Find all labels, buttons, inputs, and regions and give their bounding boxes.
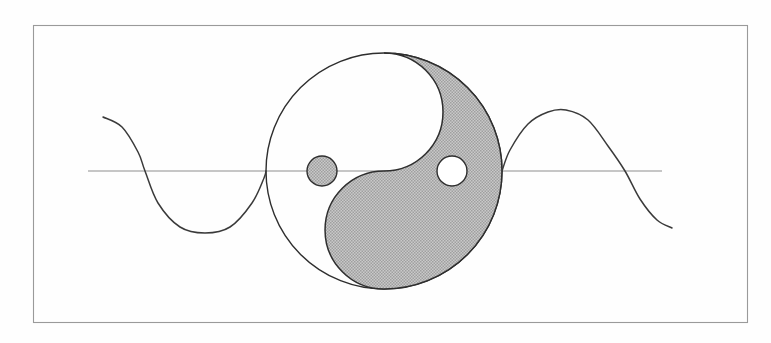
- yin-yang-small-dot-dark: [437, 156, 467, 186]
- figure-root: Yin-yang symbol superimposed on a sine w…: [0, 0, 771, 343]
- diagram-canvas: [0, 0, 771, 343]
- yin-yang-small-dot-light: [307, 156, 337, 186]
